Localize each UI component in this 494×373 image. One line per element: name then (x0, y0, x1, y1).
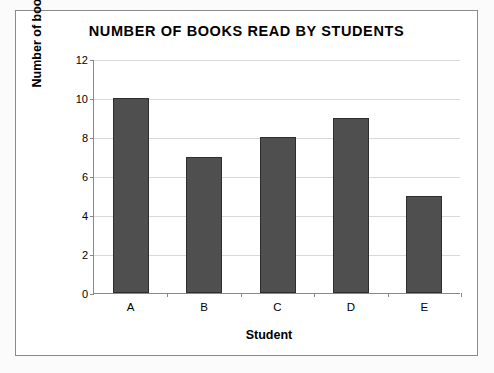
x-tick-label: D (347, 301, 355, 313)
x-tick-mark (461, 293, 462, 297)
plot-inner: 024681012 ABCDE (93, 60, 460, 294)
bar-e (406, 196, 442, 294)
plot-area: 024681012 ABCDE (78, 60, 460, 294)
x-tick-label: A (127, 301, 135, 313)
x-tick-mark (314, 293, 315, 297)
y-tick-mark (90, 99, 94, 100)
chart-title: NUMBER OF BOOKS READ BY STUDENTS (16, 23, 477, 39)
y-tick-mark (90, 294, 94, 295)
y-tick-mark (90, 60, 94, 61)
x-tick-mark (167, 293, 168, 297)
y-axis-title: Number of books (30, 0, 44, 111)
x-tick-mark (388, 293, 389, 297)
bar-a (113, 98, 149, 293)
bar-d (333, 118, 369, 294)
y-tick-label: 4 (82, 210, 88, 222)
x-tick-mark (241, 293, 242, 297)
y-tick-label: 0 (82, 288, 88, 300)
y-tick-mark (90, 177, 94, 178)
x-tick-label: E (420, 301, 428, 313)
y-tick-label: 8 (82, 132, 88, 144)
chart-page: NUMBER OF BOOKS READ BY STUDENTS Number … (0, 0, 494, 373)
y-tick-label: 10 (76, 93, 88, 105)
y-tick-label: 6 (82, 171, 88, 183)
gridline (94, 99, 460, 100)
chart-frame: NUMBER OF BOOKS READ BY STUDENTS Number … (15, 10, 478, 356)
y-tick-label: 2 (82, 249, 88, 261)
bar-b (186, 157, 222, 294)
x-axis-title: Student (78, 328, 460, 342)
gridline (94, 60, 460, 61)
x-tick-label: B (200, 301, 208, 313)
y-tick-label: 12 (76, 54, 88, 66)
y-tick-mark (90, 255, 94, 256)
y-tick-mark (90, 216, 94, 217)
x-tick-label: C (273, 301, 281, 313)
y-tick-mark (90, 138, 94, 139)
bar-c (260, 137, 296, 293)
